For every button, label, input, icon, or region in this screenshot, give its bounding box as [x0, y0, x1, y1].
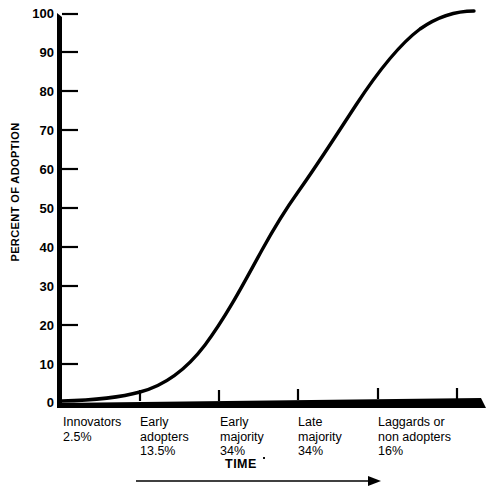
time-direction-arrow [0, 0, 490, 488]
adoption-curve-chart: PERCENT OF ADOPTION 100 90 80 70 60 50 4… [0, 0, 490, 488]
